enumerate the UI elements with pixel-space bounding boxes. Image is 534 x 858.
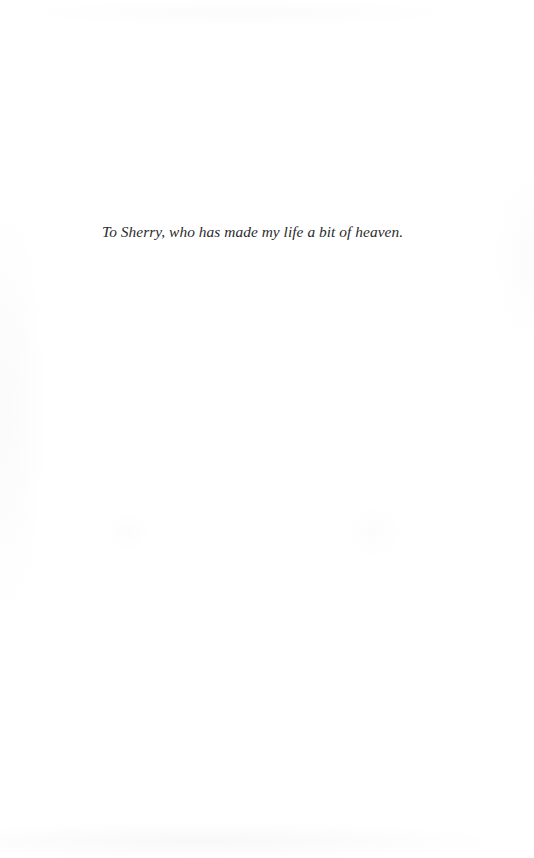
dedication-page: To Sherry, who has made my life a bit of… — [0, 0, 534, 858]
dedication-block: To Sherry, who has made my life a bit of… — [102, 222, 442, 242]
scan-noise-overlay — [0, 0, 534, 858]
dedication-text: To Sherry, who has made my life a bit of… — [102, 222, 442, 242]
